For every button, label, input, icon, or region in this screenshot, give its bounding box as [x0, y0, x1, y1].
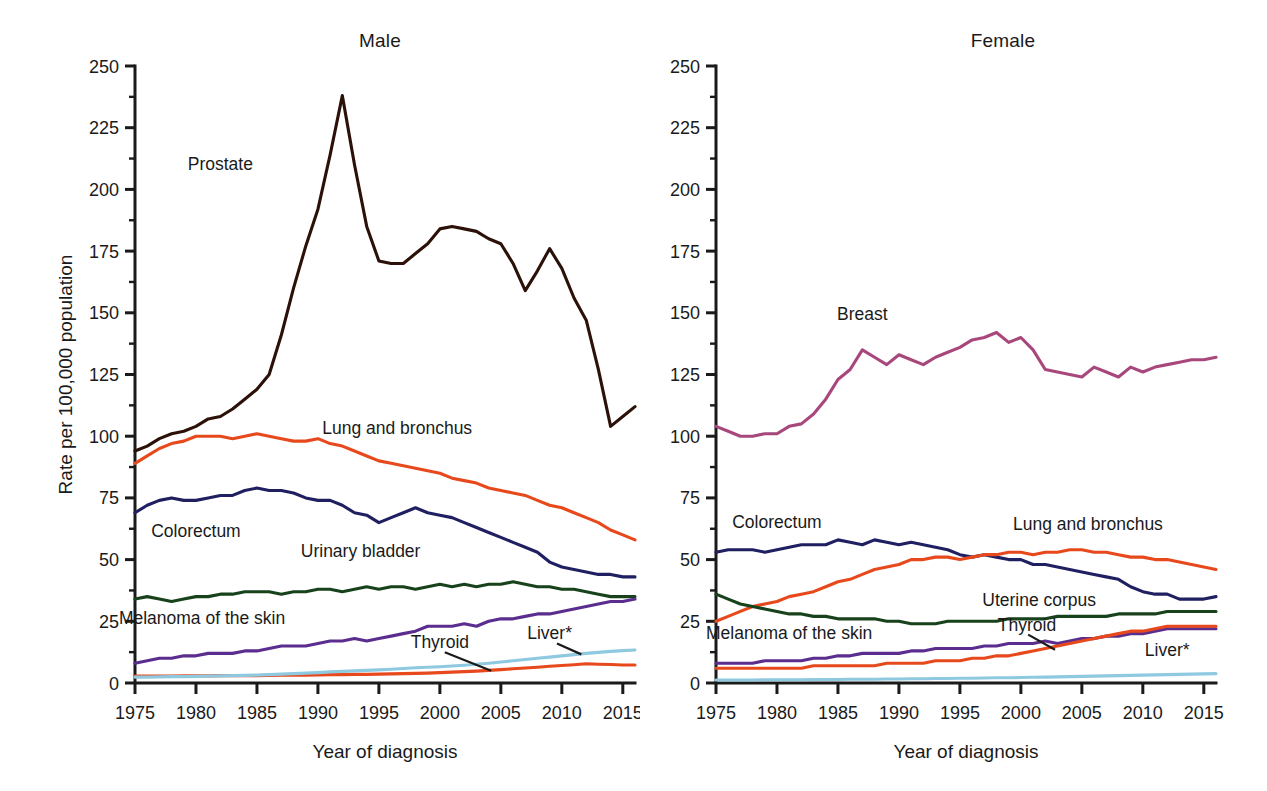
liver-leader [557, 644, 581, 655]
x-tick-label: 2010 [1123, 703, 1163, 723]
series-line-prostate [135, 96, 635, 451]
y-tick-label: 225 [89, 118, 119, 138]
series-label-thyroid: Thyroid [998, 615, 1056, 635]
series-label-lung-and-bronchus: Lung and bronchus [1013, 514, 1163, 534]
series-label-colorectum: Colorectum [151, 521, 240, 541]
y-tick-label: 75 [99, 488, 119, 508]
y-tick-label: 250 [89, 57, 119, 77]
panel-female: Female 025507510012515017520022525019751… [627, 0, 1267, 791]
x-tick-label: 1975 [115, 703, 155, 723]
y-tick-label: 225 [670, 118, 700, 138]
y-tick-label: 0 [109, 674, 119, 694]
x-tick-label: 1990 [879, 703, 919, 723]
y-tick-label: 25 [99, 612, 119, 632]
y-tick-label: 150 [670, 303, 700, 323]
series-line-breast [716, 333, 1216, 437]
y-tick-label: 175 [670, 242, 700, 262]
y-tick-label: 250 [670, 57, 700, 77]
x-axis-title: Year of diagnosis [312, 741, 457, 762]
x-axis-title: Year of diagnosis [893, 741, 1038, 762]
series-label-lung-and-bronchus: Lung and bronchus [322, 418, 472, 438]
y-tick-label: 100 [89, 427, 119, 447]
figure-root: Male 02550751001251501752002252501975198… [0, 0, 1267, 791]
y-tick-label: 175 [89, 242, 119, 262]
x-tick-label: 2005 [481, 703, 521, 723]
panel-male: Male 02550751001251501752002252501975198… [0, 0, 640, 791]
x-tick-label: 2015 [1184, 703, 1224, 723]
series-label-urinary-bladder: Urinary bladder [301, 541, 421, 561]
series-label-breast: Breast [837, 304, 888, 324]
series-line-uterine-corpus [716, 594, 1216, 624]
series-label-uterine-corpus: Uterine corpus [982, 590, 1096, 610]
series-label-liver: Liver* [1145, 640, 1190, 660]
y-axis-title: Rate per 100,000 population [55, 255, 76, 495]
x-tick-label: 1975 [696, 703, 736, 723]
thyroid-leader [445, 652, 491, 671]
series-line-colorectum [716, 540, 1216, 599]
y-tick-label: 200 [89, 180, 119, 200]
x-tick-label: 2000 [1001, 703, 1041, 723]
y-tick-label: 150 [89, 303, 119, 323]
series-label-prostate: Prostate [188, 154, 253, 174]
series-label-colorectum: Colorectum [732, 512, 821, 532]
x-tick-label: 1985 [818, 703, 858, 723]
series-label-melanoma-of-the-skin: Melanoma of the skin [119, 608, 285, 628]
x-tick-label: 1990 [298, 703, 338, 723]
plot-female: 0255075100125150175200225250197519801985… [627, 0, 1267, 791]
x-tick-label: 1995 [359, 703, 399, 723]
y-tick-label: 50 [680, 550, 700, 570]
y-tick-label: 200 [670, 180, 700, 200]
y-tick-label: 0 [690, 674, 700, 694]
series-label-thyroid: Thyroid [411, 632, 469, 652]
series-line-liver [716, 674, 1216, 680]
y-tick-label: 50 [99, 550, 119, 570]
x-tick-label: 1980 [757, 703, 797, 723]
x-tick-label: 2010 [542, 703, 582, 723]
x-tick-label: 2000 [420, 703, 460, 723]
x-tick-label: 1985 [237, 703, 277, 723]
y-tick-label: 75 [680, 488, 700, 508]
series-label-liver: Liver* [527, 623, 572, 643]
y-tick-label: 125 [670, 365, 700, 385]
y-tick-label: 125 [89, 365, 119, 385]
x-tick-label: 1995 [940, 703, 980, 723]
series-line-urinary-bladder [135, 582, 635, 602]
x-tick-label: 2005 [1062, 703, 1102, 723]
y-tick-label: 100 [670, 427, 700, 447]
x-tick-label: 1980 [176, 703, 216, 723]
series-label-melanoma-of-the-skin: Melanoma of the skin [706, 623, 872, 643]
y-tick-label: 25 [680, 612, 700, 632]
plot-male: 0255075100125150175200225250197519801985… [0, 0, 640, 791]
series-line-lung-and-bronchus [716, 550, 1216, 622]
